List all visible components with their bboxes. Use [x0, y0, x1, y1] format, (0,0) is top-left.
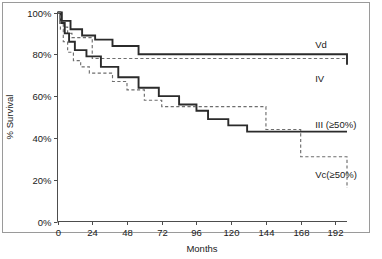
y-tick-label: 0%: [38, 217, 52, 228]
y-tick-label: 60%: [32, 91, 52, 102]
series-label-iv: IV: [315, 73, 325, 84]
x-tick-label: 24: [87, 227, 98, 238]
y-axis-title: % Survival: [4, 95, 15, 140]
x-axis-title: Months: [186, 243, 217, 254]
series-label-iii-50-: III (≥50%): [315, 119, 356, 130]
y-tick-label: 80%: [32, 49, 52, 60]
y-tick-label: 40%: [32, 133, 52, 144]
series-label-vd: Vd: [315, 39, 327, 50]
survival-chart-figure: 024487296120144168192 0%20%40%60%80%100%…: [0, 0, 382, 259]
x-tick-label: 0: [56, 227, 61, 238]
x-tick-label: 120: [224, 227, 240, 238]
x-tick-label: 168: [294, 227, 310, 238]
x-tick-label: 192: [328, 227, 344, 238]
x-tick-label: 144: [259, 227, 275, 238]
y-tick-label: 100%: [27, 8, 52, 19]
survival-chart-svg: 024487296120144168192 0%20%40%60%80%100%…: [0, 0, 382, 259]
y-tick-label: 20%: [32, 175, 52, 186]
x-tick-label: 48: [122, 227, 133, 238]
series-label-vc-50-: Vc(≥50%): [315, 169, 357, 180]
x-tick-label: 96: [191, 227, 202, 238]
x-tick-label: 72: [157, 227, 168, 238]
